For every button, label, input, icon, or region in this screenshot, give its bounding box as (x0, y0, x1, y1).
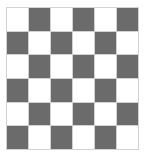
board-cell-light (95, 55, 116, 78)
board-cell-dark (73, 103, 94, 126)
board-cell-dark (29, 55, 50, 78)
board-cell-dark (7, 126, 28, 149)
board-cell-dark (73, 8, 94, 31)
board-cell-light (95, 103, 116, 126)
board-cell-dark (95, 32, 116, 55)
board-cell-light (29, 32, 50, 55)
board-cell-light (7, 103, 28, 126)
board-cell-light (51, 8, 72, 31)
board-cell-dark (51, 79, 72, 102)
board-cell-light (51, 55, 72, 78)
board-cell-light (29, 126, 50, 149)
board-cell-light (51, 103, 72, 126)
board-cell-light (29, 79, 50, 102)
checkerboard-figure (0, 0, 146, 161)
board-cell-light (73, 126, 94, 149)
board-cell-light (117, 126, 138, 149)
board-cell-light (7, 8, 28, 31)
board-cell-dark (7, 79, 28, 102)
board-cell-dark (51, 126, 72, 149)
board-cell-light (117, 79, 138, 102)
board-cell-dark (73, 55, 94, 78)
board-cell-dark (29, 8, 50, 31)
board-cell-dark (117, 55, 138, 78)
board-cell-dark (95, 79, 116, 102)
board-cell-dark (51, 32, 72, 55)
checkerboard-grid (6, 7, 139, 150)
board-cell-dark (95, 126, 116, 149)
board-cell-light (117, 32, 138, 55)
board-cell-light (73, 32, 94, 55)
board-cell-dark (7, 32, 28, 55)
board-cell-dark (29, 103, 50, 126)
board-cell-light (95, 8, 116, 31)
board-cell-dark (117, 103, 138, 126)
board-cell-light (7, 55, 28, 78)
board-cell-light (73, 79, 94, 102)
board-cell-dark (117, 8, 138, 31)
